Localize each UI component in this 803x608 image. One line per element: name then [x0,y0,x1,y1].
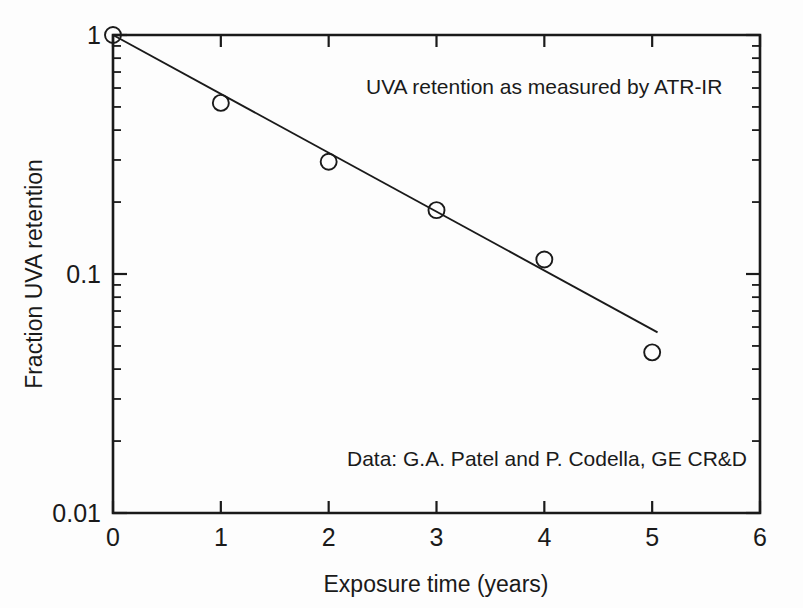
x-tick-label: 1 [214,523,228,551]
method-annotation: UVA retention as measured by ATR-IR [366,75,722,98]
scatter-plot-svg: 0123456 10.10.01 Exposure time (years) F… [0,0,803,608]
data-point [429,202,445,218]
data-point [536,251,552,267]
y-axis-title: Fraction UVA retention [21,159,47,389]
chart-figure: 0123456 10.10.01 Exposure time (years) F… [0,0,803,608]
x-axis-title: Exposure time (years) [324,571,549,597]
data-point [321,154,337,170]
y-axis-tick-labels: 10.10.01 [52,21,101,527]
plot-frame [113,35,760,513]
x-tick-label: 2 [322,523,336,551]
x-axis-top-ticks [113,35,760,47]
x-tick-label: 5 [645,523,659,551]
x-axis-tick-labels: 0123456 [106,523,767,551]
x-tick-label: 3 [430,523,444,551]
y-tick-label: 0.01 [52,499,101,527]
y-tick-label: 0.1 [66,260,101,288]
y-tick-label: 1 [87,21,101,49]
x-tick-label: 0 [106,523,120,551]
data-point [644,344,660,360]
y-axis-minor-ticks [113,46,760,441]
x-tick-label: 6 [753,523,767,551]
source-annotation: Data: G.A. Patel and P. Codella, GE CR&D [347,447,747,470]
data-point [213,95,229,111]
x-axis-major-ticks [113,501,760,513]
x-tick-label: 4 [537,523,551,551]
